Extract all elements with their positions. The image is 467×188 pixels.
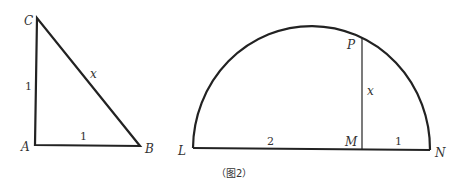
figure-caption: （图2） (216, 168, 252, 179)
semicircle-arc (193, 26, 430, 150)
diameter-ln (193, 148, 430, 150)
segment-pm-label: x (367, 84, 374, 98)
side-ac-label: 1 (25, 80, 32, 93)
vertex-b-label: B (144, 142, 154, 156)
segment-lm-label: 2 (267, 135, 274, 148)
point-p-label: P (346, 38, 356, 52)
side-bc-label: x (90, 67, 97, 81)
vertex-a-label: A (20, 140, 30, 154)
side-ab-label: 1 (80, 130, 87, 143)
vertex-c-label: C (24, 14, 33, 28)
point-m-label: M (344, 135, 358, 149)
point-l-label: L (177, 144, 186, 158)
triangle-abc (35, 18, 140, 146)
point-n-label: N (434, 146, 446, 160)
geometry-diagram: C A B 1 1 x L M N P 2 1 x （图2） (0, 0, 467, 188)
right-triangle-figure: C A B 1 1 x (20, 14, 154, 156)
semicircle-figure: L M N P 2 1 x （图2） (177, 26, 446, 179)
segment-mn-label: 1 (395, 135, 402, 148)
